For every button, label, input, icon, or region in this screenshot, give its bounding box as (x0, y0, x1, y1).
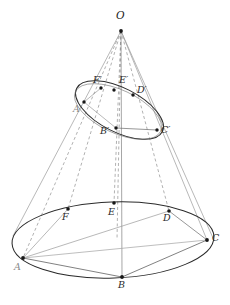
label-point-D: D (163, 213, 171, 223)
dot-D-prime (131, 93, 134, 96)
ruling-O-B (121, 31, 122, 277)
label-point-F-prime: F′ (93, 75, 102, 85)
label-point-B: B (118, 280, 125, 290)
dot-A-prime (82, 100, 85, 103)
label-point-E-prime: E′ (119, 75, 128, 85)
dot-apex-O (119, 29, 123, 33)
label-point-E: E (108, 207, 115, 217)
dot-A (21, 256, 25, 260)
label-point-A-prime: A′ (73, 104, 82, 114)
label-point-C-prime: C′ (161, 125, 170, 135)
vertex-dots-group (21, 29, 209, 279)
dot-F-prime (99, 86, 102, 89)
label-point-C: C (212, 233, 219, 243)
chord-B-prime-C-prime (116, 128, 157, 130)
ruling-O-A (23, 31, 121, 258)
dot-C-prime (155, 128, 158, 131)
dot-B-prime (114, 126, 117, 129)
cone-geometry-figure: O A B C D E F A′ B′ C′ D′ E′ F′ (0, 0, 230, 305)
label-point-A: A (14, 262, 21, 272)
label-apex-O: O (116, 10, 125, 21)
figure-canvas (0, 0, 230, 305)
ruling-lines-group (23, 31, 207, 277)
dot-C (205, 238, 209, 242)
label-point-F: F (62, 212, 69, 222)
ruling-O-D (121, 31, 169, 211)
ruling-O-C (121, 31, 207, 240)
dot-E (112, 201, 116, 205)
label-point-D-prime: D′ (137, 85, 147, 95)
chord-A-prime-F-prime (84, 88, 101, 102)
label-point-B-prime: B′ (100, 126, 109, 136)
dot-E-prime (112, 88, 115, 91)
ruling-O-E (114, 31, 121, 203)
